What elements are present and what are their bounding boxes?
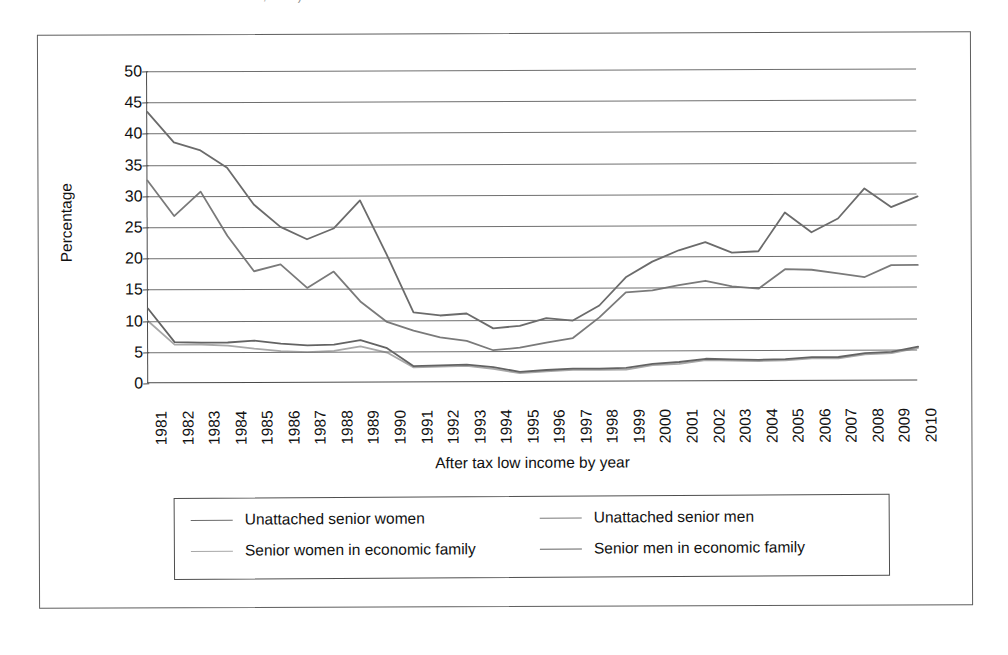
x-axis-tick-1993: 1993 — [472, 410, 488, 445]
x-axis-tick-2009: 2009 — [897, 408, 913, 443]
y-axis-tickmark-25 — [143, 227, 149, 228]
series-line-senior-women-in-economic-family — [148, 318, 918, 375]
legend-entry-2[interactable]: Senior women in economic family — [191, 540, 540, 560]
legend-line-swatch-icon — [540, 549, 582, 550]
y-axis-tickmark-30 — [143, 196, 149, 197]
y-axis-tick-50: 50 — [96, 63, 142, 79]
x-axis-tick-2002: 2002 — [711, 409, 727, 444]
y-axis-tick-20: 20 — [97, 251, 143, 267]
y-axis-tick-40: 40 — [96, 126, 142, 142]
y-axis-tickmark-20 — [143, 259, 149, 260]
x-axis-tick-1986: 1986 — [286, 410, 302, 445]
x-axis-tick-1989: 1989 — [366, 410, 382, 445]
x-axis-tick-2008: 2008 — [870, 408, 886, 443]
x-axis-tick-1981: 1981 — [153, 411, 169, 446]
x-axis-tick-1996: 1996 — [552, 409, 568, 444]
legend-entry-1[interactable]: Unattached senior men — [540, 507, 889, 527]
x-axis-tick-1992: 1992 — [445, 410, 461, 445]
x-axis-tick-2004: 2004 — [764, 408, 780, 443]
source-caption-strip: Source: Statistics Canada, 2012) — [0, 0, 1008, 16]
y-axis-tickmark-45 — [142, 103, 148, 104]
x-axis-tick-1983: 1983 — [206, 411, 222, 446]
y-axis-tick-30: 30 — [96, 188, 142, 204]
y-axis-tickmark-5 — [143, 352, 149, 353]
series-line-unattached-senior-women — [147, 109, 918, 330]
x-axis-tick-1999: 1999 — [631, 409, 647, 444]
x-axis-tick-1985: 1985 — [260, 410, 276, 445]
x-axis-tick-1988: 1988 — [339, 410, 355, 445]
x-axis-tick-labels: 1981198219831984198519861987198819891990… — [147, 384, 917, 449]
x-axis-tick-1982: 1982 — [180, 411, 196, 446]
x-axis-tick-2010: 2010 — [923, 408, 939, 443]
y-axis-tick-15: 15 — [97, 282, 143, 298]
y-axis-tick-25: 25 — [97, 219, 143, 235]
y-axis-tick-labels: 50454035302520151050 — [96, 71, 143, 383]
x-axis-tick-2006: 2006 — [817, 408, 833, 443]
x-axis-tick-1990: 1990 — [392, 410, 408, 445]
y-axis-tickmark-15 — [143, 290, 149, 291]
x-axis-tick-2001: 2001 — [684, 409, 700, 444]
legend-line-swatch-icon — [191, 520, 233, 521]
y-axis-tickmark-35 — [142, 165, 148, 166]
x-axis-tick-2003: 2003 — [737, 409, 753, 444]
y-axis-tick-0: 0 — [97, 375, 143, 391]
x-axis-tick-1991: 1991 — [419, 410, 435, 445]
y-axis-tick-5: 5 — [97, 344, 143, 360]
x-axis-tick-1994: 1994 — [499, 409, 515, 444]
x-axis-tick-1987: 1987 — [313, 410, 329, 445]
y-axis-title: Percentage — [57, 143, 76, 303]
legend-entry-3[interactable]: Senior men in economic family — [540, 538, 889, 558]
x-axis-tick-2007: 2007 — [844, 408, 860, 443]
series-line-unattached-senior-men — [147, 178, 918, 352]
legend-entry-label: Senior women in economic family — [245, 540, 476, 559]
legend-grid: Unattached senior womenUnattached senior… — [175, 507, 889, 560]
legend-entry-label: Unattached senior women — [245, 510, 425, 529]
legend-entry-label: Senior men in economic family — [594, 538, 805, 557]
plot-area — [146, 68, 917, 383]
legend-entry-label: Unattached senior men — [594, 508, 754, 527]
x-axis-tick-2005: 2005 — [791, 408, 807, 443]
y-axis-tickmark-50 — [142, 71, 148, 72]
y-axis-tick-35: 35 — [96, 157, 142, 173]
chart-plot-block: Percentage 50454035302520151050 19811982… — [38, 32, 972, 608]
legend-line-swatch-icon — [191, 551, 233, 552]
figure-frame: Percentage 50454035302520151050 19811982… — [37, 31, 973, 609]
legend-line-swatch-icon — [540, 518, 582, 519]
chart-legend: Unattached senior womenUnattached senior… — [174, 494, 890, 580]
x-axis-tick-2000: 2000 — [658, 409, 674, 444]
series-line-senior-men-in-economic-family — [148, 306, 918, 374]
x-axis-tick-1998: 1998 — [605, 409, 621, 444]
x-axis-tick-1995: 1995 — [525, 409, 541, 444]
y-axis-tickmark-40 — [142, 134, 148, 135]
x-axis-title: After tax low income by year — [148, 452, 918, 473]
y-axis-tickmark-10 — [143, 321, 149, 322]
source-caption-text: Source: Statistics Canada, 2012) — [120, 0, 302, 3]
legend-entry-0[interactable]: Unattached senior women — [191, 509, 540, 529]
y-axis-tick-45: 45 — [96, 95, 142, 111]
y-axis-tickmark-0 — [143, 383, 149, 384]
x-axis-tick-1997: 1997 — [578, 409, 594, 444]
y-axis-tick-10: 10 — [97, 313, 143, 329]
x-axis-tick-1984: 1984 — [233, 411, 249, 446]
